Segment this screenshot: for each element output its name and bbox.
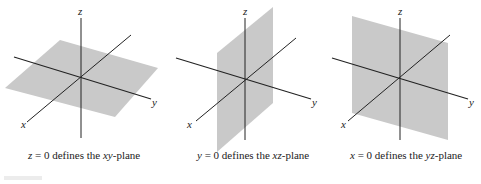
x-axis-label: x — [340, 118, 346, 130]
caption-plane-name: xz — [273, 149, 282, 161]
x-axis-label: x — [20, 118, 26, 130]
caption-plane-name: yz — [426, 149, 435, 161]
x-axis-label: x — [186, 118, 192, 130]
yz-plane-diagram: z y x — [332, 5, 474, 140]
y-axis-label: y — [311, 96, 317, 108]
caption-plane-name: xy — [103, 149, 113, 161]
caption-yz-plane: x = 0 defines the yz-plane — [350, 149, 462, 161]
caption-xy-plane: z = 0 defines the xy-plane — [28, 149, 140, 161]
cropped-figure-label — [4, 176, 42, 180]
z-axis-label: z — [397, 5, 403, 17]
z-axis-label: z — [77, 5, 83, 17]
xz-plane-diagram: z y x — [176, 5, 317, 152]
y-axis-label: y — [468, 96, 474, 108]
z-axis-label: z — [242, 5, 248, 17]
y-axis-label: y — [151, 96, 157, 108]
xy-plane-diagram: z y x — [5, 5, 158, 138]
caption-xz-plane: y = 0 defines the xz-plane — [197, 149, 309, 161]
